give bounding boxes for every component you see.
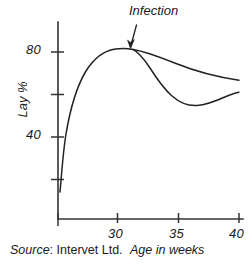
y-tick-label-80: 80 bbox=[26, 42, 41, 57]
x-tick-label-30: 30 bbox=[108, 226, 123, 241]
curve-normal-lay bbox=[60, 49, 239, 192]
x-tick-label-40: 40 bbox=[229, 226, 244, 241]
chart-footer: Source: Intervet Ltd. Age in weeks bbox=[0, 243, 252, 265]
infection-arrow-head bbox=[128, 40, 135, 49]
x-axis-title: Age in weeks bbox=[130, 243, 204, 257]
y-axis-title: Lay % bbox=[15, 68, 30, 132]
infection-annotation-label: Infection bbox=[129, 3, 178, 18]
source-word: Source bbox=[10, 243, 50, 257]
chart-figure: 80 40 30 35 40 Lay % Infection Source: I… bbox=[0, 0, 252, 270]
source-credit: Source: Intervet Ltd. bbox=[10, 243, 123, 257]
x-tick-label-35: 35 bbox=[169, 226, 184, 241]
source-organisation: Intervet Ltd. bbox=[53, 243, 122, 257]
